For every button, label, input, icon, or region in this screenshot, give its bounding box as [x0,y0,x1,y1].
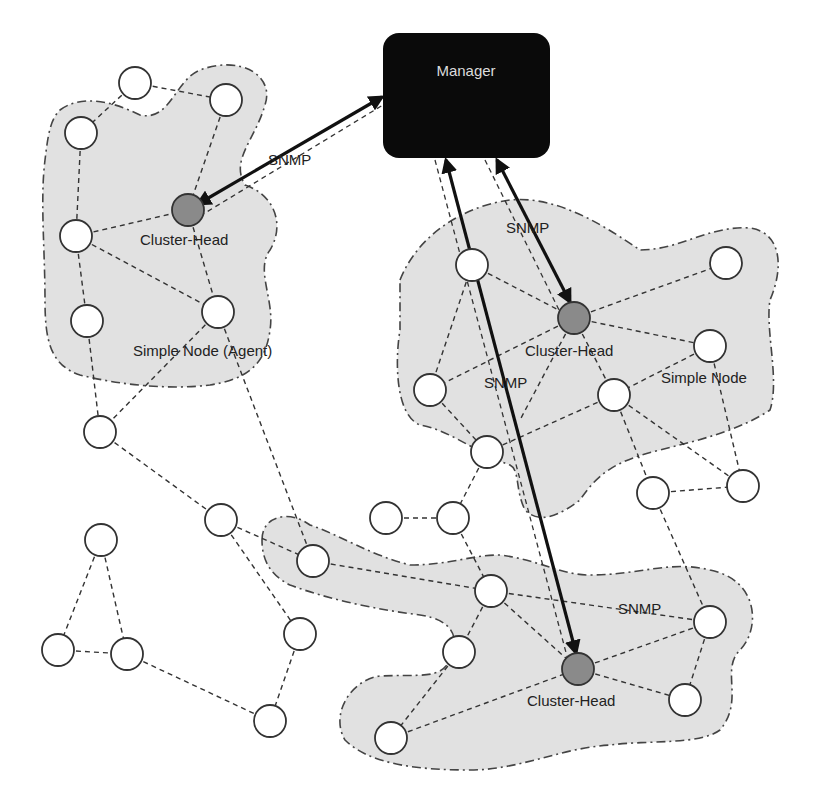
node [437,502,469,534]
node [694,606,726,638]
node [71,305,103,337]
manager-box: Manager [383,33,550,158]
cluster-head-bottom [562,653,594,685]
cluster-head-label-bottom: Cluster-Head [527,692,615,709]
node [119,67,151,99]
node [65,117,97,149]
node [471,436,503,468]
node [254,705,286,737]
node [443,636,475,668]
bottom-cluster-region [262,517,752,770]
node [598,379,630,411]
snmp-label-right-mid: SNMP [484,374,527,391]
node [84,416,116,448]
node [210,84,242,116]
node [414,374,446,406]
node [85,524,117,556]
simple-node-agent-label: Simple Node (Agent) [133,342,272,359]
node [60,220,92,252]
node [111,638,143,670]
network-diagram: Manager S [0,0,813,801]
node [375,722,407,754]
node [669,684,701,716]
snmp-label-right-top: SNMP [506,219,549,236]
node [456,249,488,281]
node [284,618,316,650]
snmp-label-left: SNMP [268,151,311,168]
node-simple [694,330,726,362]
simple-node-label: Simple Node [661,369,747,386]
node [370,502,402,534]
cluster-head-right [558,302,590,334]
node-agent [202,296,234,328]
node [710,247,742,279]
cluster-head-label-left: Cluster-Head [140,231,228,248]
manager-label: Manager [436,62,495,79]
snmp-label-bottom: SNMP [618,600,661,617]
node [727,470,759,502]
cluster-head-left [172,194,204,226]
node [205,504,237,536]
cluster-head-label-right: Cluster-Head [525,342,613,359]
node [297,545,329,577]
node [42,634,74,666]
node [475,575,507,607]
node [637,477,669,509]
